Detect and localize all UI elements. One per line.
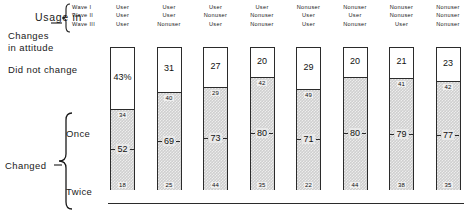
- plot-area: 43%3452183140692527297344204280352949712…: [110, 22, 462, 197]
- value-twice-8: 35: [437, 182, 460, 188]
- value-twice-2: 25: [158, 182, 181, 188]
- value-changed-total-7: 79: [390, 129, 413, 139]
- segment-changed-5: 497122: [297, 89, 320, 190]
- bar-column-5[interactable]: 29497122: [296, 22, 321, 197]
- value-twice-5: 22: [297, 182, 320, 188]
- stacked-bar-3[interactable]: 27297344: [203, 47, 228, 190]
- value-twice-3: 44: [204, 182, 227, 188]
- stacked-bar-4[interactable]: 20428035: [250, 47, 275, 190]
- twice-label: Twice: [66, 186, 92, 197]
- value-changed-total-4: 80: [251, 128, 274, 138]
- changes-line-1: Changes: [8, 30, 54, 42]
- segment-did-not-change-4: 20: [251, 48, 274, 77]
- value-twice-4: 35: [251, 182, 274, 188]
- value-once-2: 40: [158, 95, 181, 101]
- column-header-8-wave-2: Nonuser: [420, 11, 467, 19]
- chart-container: Usage in Wave I Wave II Wave III UserUse…: [0, 0, 467, 215]
- bar-column-7[interactable]: 21417938: [389, 22, 414, 197]
- value-did-not-change-8: 23: [437, 58, 460, 68]
- segment-did-not-change-5: 29: [297, 48, 320, 89]
- value-did-not-change-1: 43%: [111, 72, 134, 82]
- value-did-not-change-2: 31: [158, 63, 181, 73]
- value-once-1: 34: [111, 112, 134, 118]
- value-changed-total-6: 80: [344, 128, 367, 138]
- stacked-bar-6[interactable]: 208044: [343, 47, 368, 190]
- value-did-not-change-5: 29: [297, 62, 320, 72]
- segment-changed-8: 427735: [437, 81, 460, 190]
- bar-column-2[interactable]: 31406925: [157, 22, 182, 197]
- segment-did-not-change-3: 27: [204, 48, 227, 87]
- value-did-not-change-4: 20: [251, 56, 274, 66]
- bar-column-3[interactable]: 27297344: [203, 22, 228, 197]
- segment-changed-1: 345218: [111, 109, 134, 190]
- value-once-3: 29: [204, 90, 227, 96]
- value-twice-6: 44: [344, 182, 367, 188]
- segment-changed-3: 297344: [204, 87, 227, 190]
- baseline-axis: [108, 203, 464, 204]
- did-not-change-label: Did not change: [8, 64, 78, 75]
- value-did-not-change-7: 21: [390, 56, 413, 66]
- segment-did-not-change-7: 21: [390, 48, 413, 78]
- changes-in-attitude-label: Changes in attitude: [8, 30, 54, 53]
- stacked-bar-2[interactable]: 31406925: [157, 47, 182, 190]
- stacked-bar-1[interactable]: 43%345218: [110, 47, 135, 190]
- value-once-7: 41: [390, 81, 413, 87]
- value-did-not-change-6: 20: [344, 56, 367, 66]
- segment-did-not-change-6: 20: [344, 48, 367, 77]
- bar-column-6[interactable]: 208044: [343, 22, 368, 197]
- once-label: Once: [66, 128, 90, 139]
- changed-label: Changed: [5, 160, 46, 171]
- stacked-bar-7[interactable]: 21417938: [389, 47, 414, 190]
- column-header-8-wave-1: Nonuser: [420, 3, 467, 11]
- segment-changed-6: 8044: [344, 77, 367, 190]
- segment-did-not-change-2: 31: [158, 48, 181, 92]
- changes-line-2: in attitude: [8, 42, 54, 54]
- value-changed-total-8: 77: [437, 130, 460, 140]
- bar-column-1[interactable]: 43%345218: [110, 22, 135, 197]
- value-changed-total-5: 71: [297, 134, 320, 144]
- value-once-8: 42: [437, 84, 460, 90]
- segment-changed-4: 428035: [251, 77, 274, 190]
- stacked-bar-5[interactable]: 29497122: [296, 47, 321, 190]
- value-twice-1: 18: [111, 182, 134, 188]
- stacked-bar-8[interactable]: 23427735: [436, 47, 461, 190]
- value-once-4: 42: [251, 80, 274, 86]
- segment-did-not-change-8: 23: [437, 48, 460, 81]
- value-twice-7: 38: [390, 182, 413, 188]
- value-changed-total-1: 52: [111, 144, 134, 154]
- value-once-5: 49: [297, 92, 320, 98]
- value-did-not-change-3: 27: [204, 61, 227, 71]
- value-changed-total-3: 73: [204, 133, 227, 143]
- segment-changed-7: 417938: [390, 78, 413, 190]
- segment-did-not-change-1: 43%: [111, 48, 134, 109]
- value-changed-total-2: 69: [158, 136, 181, 146]
- bar-column-4[interactable]: 20428035: [250, 22, 275, 197]
- bar-column-8[interactable]: 23427735: [436, 22, 461, 197]
- segment-changed-2: 406925: [158, 92, 181, 190]
